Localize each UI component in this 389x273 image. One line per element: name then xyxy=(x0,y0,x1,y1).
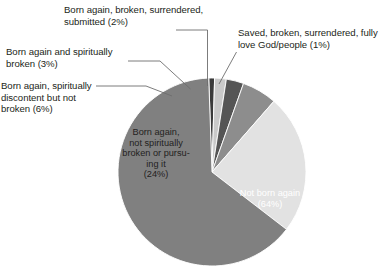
slice-label-born-again-not-spiritually-broken-or-pursuing-it: Born again, not spiritually broken or pu… xyxy=(113,127,199,180)
slice-label-not-born-again: Not born again (64%) xyxy=(224,188,316,209)
slice-label-saved-broken-surrendered-fully-love-god-people: Saved, broken, surrendered, fully love G… xyxy=(238,27,378,50)
pie-chart-figure: Born again, broken, surrendered, submitt… xyxy=(0,0,389,273)
slice-label-born-again-and-spiritually-broken: Born again and spiritually broken (3%) xyxy=(6,46,112,69)
slice-label-born-again-broken-surrendered-submitted: Born again, broken, surrendered, submitt… xyxy=(64,4,203,27)
leader-line-2pct xyxy=(176,30,208,86)
slice-label-born-again-spiritually-discontent-but-not-broken: Born again, spiritually discontent but n… xyxy=(1,80,92,115)
